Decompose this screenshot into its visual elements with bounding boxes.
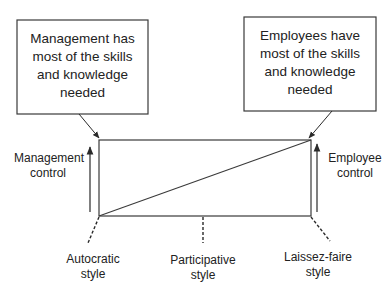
right-box-text: Employees have most of the skills and kn… (244, 27, 376, 99)
label-line: style (278, 265, 358, 280)
autocratic-style-label: Autocratic style (58, 252, 128, 282)
laissez-faire-leader-line (311, 217, 330, 241)
label-line: Employee (322, 151, 388, 166)
label-line: Management (14, 151, 82, 166)
left-box-text: Management has most of the skills and kn… (17, 30, 148, 102)
left-box-line: needed (17, 84, 148, 102)
autocratic-leader-line (88, 217, 99, 243)
employee-control-label: Employee control (322, 151, 388, 181)
label-line: style (163, 268, 243, 283)
participative-style-label: Participative style (163, 253, 243, 283)
diagonal-line (99, 140, 311, 216)
label-line: Autocratic (58, 252, 128, 267)
right-box-line: most of the skills (244, 45, 376, 63)
right-box-line: needed (244, 81, 376, 99)
laissez-faire-style-label: Laissez-faire style (278, 250, 358, 280)
label-line: Participative (163, 253, 243, 268)
management-control-label: Management control (14, 151, 82, 181)
label-line: control (14, 166, 82, 181)
left-box-line: Management has (17, 30, 148, 48)
left-box-line: most of the skills (17, 48, 148, 66)
right-box-line: Employees have (244, 27, 376, 45)
left-box-line: and knowledge (17, 66, 148, 84)
right-pointer-arrow (309, 111, 332, 138)
label-line: control (322, 166, 388, 181)
left-pointer-arrow (79, 114, 99, 138)
label-line: Laissez-faire (278, 250, 358, 265)
label-line: style (58, 267, 128, 282)
right-box-line: and knowledge (244, 63, 376, 81)
